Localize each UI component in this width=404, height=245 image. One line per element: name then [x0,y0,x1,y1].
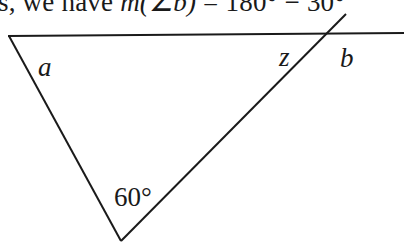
top-line [8,33,404,36]
triangle-diagram: a z b 60° [0,0,404,245]
label-b: b [340,43,354,73]
transversal-side [121,14,346,241]
label-60-degrees: 60° [114,182,152,212]
left-side [9,36,121,241]
label-a: a [38,52,52,82]
label-z: z [278,42,290,72]
